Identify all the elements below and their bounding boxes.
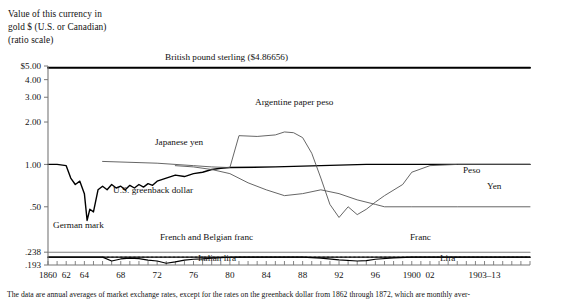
series-label-argentine-peso: Argentine paper peso	[255, 97, 334, 107]
series-label-greenback-dollar: U.S. greenback dollar	[113, 185, 193, 195]
y-axis-tick-label: $5.00	[21, 61, 42, 71]
x-axis-tick-label: 88	[298, 270, 308, 280]
x-axis-tick-label: 96	[371, 270, 381, 280]
x-axis-tick-group: 1860626468727680848892961900021903–13	[39, 261, 530, 280]
x-axis-tick-label: 80	[225, 270, 235, 280]
series-label-yen-right: Yen	[487, 181, 502, 191]
y-axis-tick-label: .238	[25, 247, 41, 257]
series-label-franc-right: Franc	[410, 232, 431, 242]
x-axis-tick-label: 1903–13	[469, 270, 501, 280]
series-line	[48, 257, 530, 263]
series-label-french-belgian-franc: French and Belgian franc	[160, 232, 253, 242]
y-axis-tick-group: $5.004.003.002.001.00.50.238.193	[21, 61, 48, 270]
x-axis-tick-label: 84	[262, 270, 272, 280]
y-axis-tick-label: 4.00	[25, 75, 41, 85]
y-axis-tick-label: .193	[25, 260, 41, 270]
series-label-italian-lira: Italian lira	[198, 253, 236, 263]
series-label-german-mark: German mark	[53, 220, 104, 230]
x-axis-tick-label: 68	[116, 270, 126, 280]
y-axis-tick-label: 3.00	[25, 92, 41, 102]
x-axis-tick-label: 02	[425, 270, 435, 280]
x-axis-tick-label: 64	[80, 270, 90, 280]
series-label-pound: British pound sterling ($4.86656)	[165, 52, 288, 62]
x-axis-tick-label: 1900	[403, 270, 422, 280]
x-axis-tick-label: 76	[189, 270, 199, 280]
x-axis-tick-label: 1860	[39, 270, 58, 280]
figure-footnote: The data are annual averages of market e…	[7, 290, 470, 300]
series-label-lira-right: Lira	[440, 253, 455, 263]
series-label-japanese-yen: Japanese yen	[155, 137, 204, 147]
y-axis-tick-label: 2.00	[25, 117, 41, 127]
currency-gold-value-chart-figure: Value of this currency in gold $ (U.S. o…	[0, 0, 563, 306]
x-axis-tick-label: 62	[62, 270, 72, 280]
x-axis-tick-label: 72	[153, 270, 163, 280]
x-axis-tick-label: 92	[334, 270, 344, 280]
y-axis-tick-label: 1.00	[25, 160, 41, 170]
chart-plot-area: $5.004.003.002.001.00.50.238.193 1860626…	[0, 0, 563, 306]
y-axis-tick-label: .50	[30, 202, 42, 212]
series-label-peso-right: Peso	[463, 165, 481, 175]
